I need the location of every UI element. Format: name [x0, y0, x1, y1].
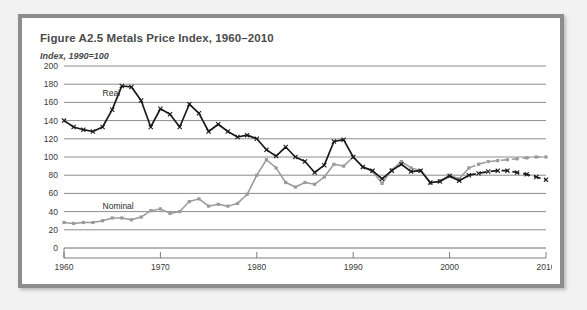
- chart-y-axis-labels: 020406080100120140160180200: [44, 62, 58, 253]
- figure-inner: Figure A2.5 Metals Price Index, 1960–201…: [22, 18, 560, 284]
- series-inline-labels: RealNominal: [103, 88, 134, 211]
- svg-text:1960: 1960: [55, 262, 74, 272]
- metals-price-index-chart: 020406080100120140160180200 196019701980…: [34, 62, 552, 274]
- svg-text:120: 120: [44, 134, 58, 144]
- svg-text:2000: 2000: [440, 262, 459, 272]
- svg-text:1990: 1990: [344, 262, 363, 272]
- svg-text:0: 0: [53, 243, 58, 253]
- chart-plot-area: 020406080100120140160180200 196019701980…: [34, 62, 552, 274]
- series-real: [62, 84, 548, 185]
- svg-text:40: 40: [49, 207, 59, 217]
- svg-text:20: 20: [49, 225, 59, 235]
- page-title: Figure A2.5 Metals Price Index, 1960–201…: [40, 32, 274, 44]
- svg-text:180: 180: [44, 79, 58, 89]
- svg-text:Real: Real: [103, 88, 121, 98]
- svg-text:200: 200: [44, 62, 58, 71]
- svg-text:160: 160: [44, 97, 58, 107]
- chart-x-axis: [64, 248, 546, 258]
- svg-text:140: 140: [44, 116, 58, 126]
- svg-text:60: 60: [49, 188, 59, 198]
- svg-text:Nominal: Nominal: [103, 201, 134, 211]
- svg-text:2010: 2010: [537, 262, 552, 272]
- figure-subtitle: Index, 1990=100: [40, 51, 109, 61]
- svg-text:80: 80: [49, 170, 59, 180]
- svg-text:100: 100: [44, 152, 58, 162]
- svg-text:1980: 1980: [247, 262, 266, 272]
- figure-page: Figure A2.5 Metals Price Index, 1960–201…: [0, 0, 587, 310]
- series-nominal: [62, 155, 547, 225]
- figure-frame: Figure A2.5 Metals Price Index, 1960–201…: [18, 14, 564, 288]
- svg-text:1970: 1970: [151, 262, 170, 272]
- chart-x-axis-labels: 196019701980199020002010: [55, 262, 552, 272]
